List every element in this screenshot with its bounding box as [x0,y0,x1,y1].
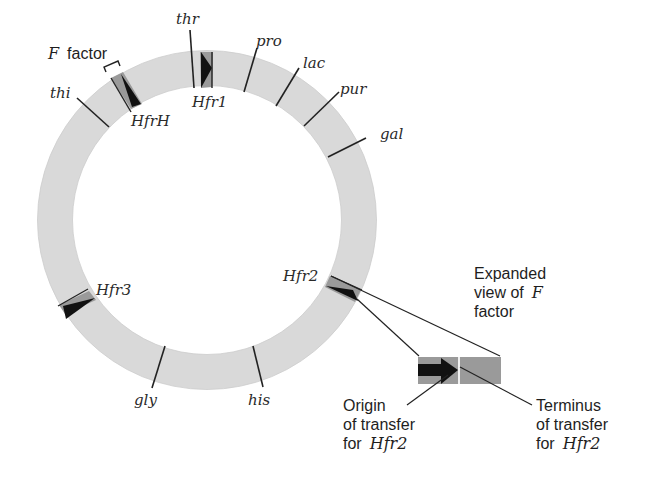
terminus-line3: for Hfr2 [536,434,600,453]
hfr-label-hfrH: HfrH [130,112,171,130]
gene-label-thr: thr [176,10,200,28]
hfr-label-hfr3: Hfr3 [95,281,131,299]
gene-label-pur: pur [340,80,367,98]
expanded-arrow-shaft [418,364,442,376]
svg-text:Origin: Origin [343,397,386,414]
gene-label-lac: lac [303,54,326,72]
gene-label-thi: thi [50,84,71,102]
hfr1-insertion [200,52,213,88]
gene-label-gal: gal [380,125,404,143]
origin-caption: Origin of transfer for Hfr2 [343,397,416,453]
expanded-view-caption: Expanded view of F factor [474,265,546,320]
expanded-view-line2: view of F [474,283,544,302]
svg-text:Expanded: Expanded [474,265,546,282]
gene-label-pro: pro [256,32,282,50]
terminus-caption: Terminus of transfer for Hfr2 [536,397,609,453]
chromosome-diagram: thr pro lac pur gal his gly thi Hfr1 Hfr… [0,0,663,489]
svg-text:of transfer: of transfer [343,416,416,433]
svg-text:of transfer: of transfer [536,416,609,433]
f-factor-label: F factor [47,44,108,63]
svg-text:Terminus: Terminus [536,397,601,414]
hfr-label-hfr1: Hfr1 [191,93,227,111]
gene-label-gly: gly [134,391,157,409]
chromosome-ring [55,68,359,372]
ring-inner-edge [73,86,342,355]
origin-line3: for Hfr2 [343,434,407,453]
hfr-label-hfr2: Hfr2 [282,267,318,285]
expanded-f-factor [418,357,501,384]
f-factor-bracket [104,61,120,72]
gene-label-his: his [248,391,270,409]
svg-text:factor: factor [474,303,515,320]
